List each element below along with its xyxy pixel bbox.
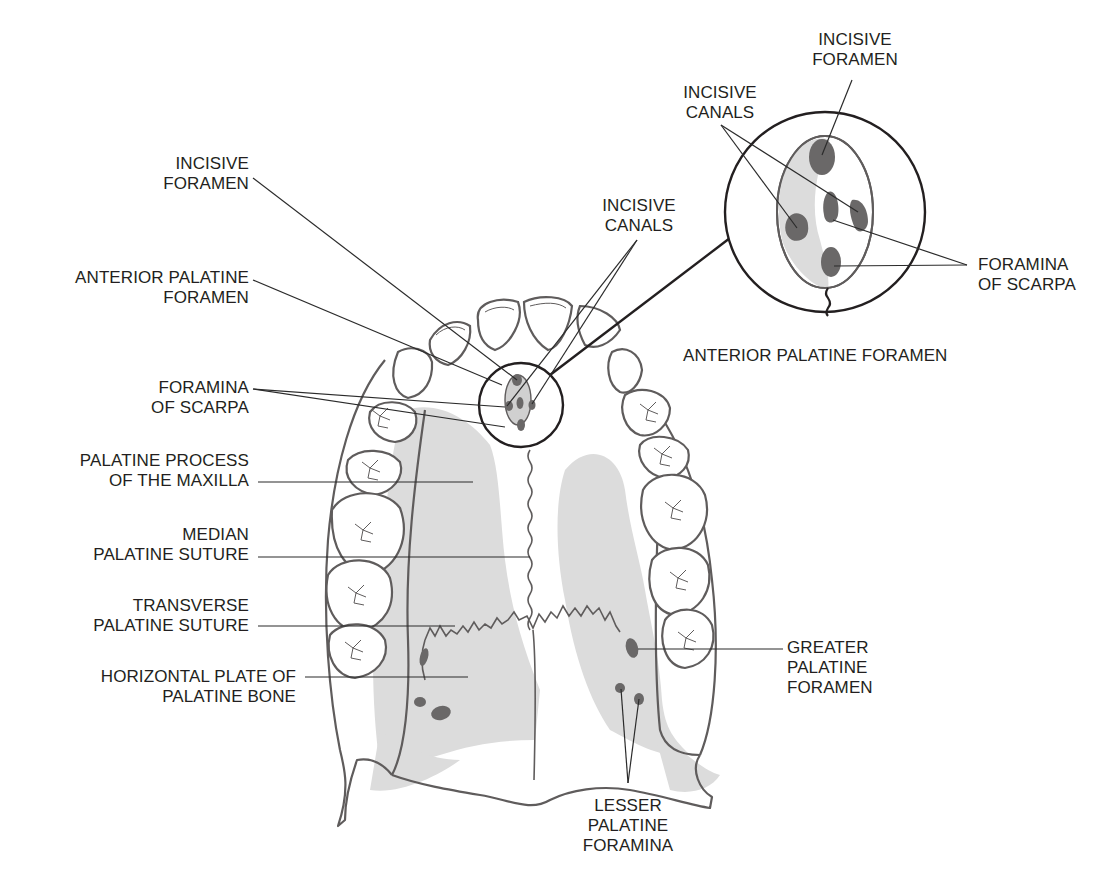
label-foramina-of-scarpa: FORAMINA OF SCARPA xyxy=(151,378,249,418)
label-line: FORAMEN xyxy=(787,678,873,698)
label-incisive-canals-center: INCISIVE CANALS xyxy=(594,196,684,236)
label-line: PALATINE xyxy=(568,816,688,836)
label-line: OF THE MAXILLA xyxy=(80,471,249,491)
label-line: FORAMEN xyxy=(75,288,249,308)
label-line: ANTERIOR PALATINE xyxy=(75,268,249,288)
label-line: PALATINE SUTURE xyxy=(93,545,249,565)
label-median-palatine-suture: MEDIAN PALATINE SUTURE xyxy=(93,525,249,565)
label-line: FORAMINA xyxy=(151,378,249,398)
label-line: HORIZONTAL PLATE OF xyxy=(101,667,296,687)
label-line: FORAMEN xyxy=(800,50,910,70)
palate-diagram: INCISIVE FORAMEN ANTERIOR PALATINE FORAM… xyxy=(0,0,1116,890)
label-lesser-palatine-foramina: LESSER PALATINE FORAMINA xyxy=(568,796,688,856)
inset-title-text: ANTERIOR PALATINE FORAMEN xyxy=(683,346,947,366)
label-line: CANALS xyxy=(594,216,684,236)
label-line: FORAMEN xyxy=(163,174,249,194)
label-line: FORAMINA xyxy=(978,255,1076,275)
inset-anterior-palatine-foramen xyxy=(725,112,925,316)
label-anterior-palatine-foramen: ANTERIOR PALATINE FORAMEN xyxy=(75,268,249,308)
label-line: CANALS xyxy=(665,103,775,123)
label-line: INCISIVE xyxy=(594,196,684,216)
label-incisive-foramen: INCISIVE FORAMEN xyxy=(163,154,249,194)
label-incisive-canals-inset: INCISIVE CANALS xyxy=(665,83,775,123)
label-line: TRANSVERSE xyxy=(93,596,249,616)
palate-illustration xyxy=(0,0,1116,890)
label-line: OF SCARPA xyxy=(978,275,1076,295)
label-line: MEDIAN xyxy=(93,525,249,545)
label-foramina-of-scarpa-inset: FORAMINA OF SCARPA xyxy=(978,255,1076,295)
label-line: INCISIVE xyxy=(800,30,910,50)
label-incisive-foramen-inset: INCISIVE FORAMEN xyxy=(800,30,910,70)
label-line: FORAMINA xyxy=(568,836,688,856)
label-line: PALATINE BONE xyxy=(101,687,296,707)
label-palatine-process-of-maxilla: PALATINE PROCESS OF THE MAXILLA xyxy=(80,451,249,491)
label-line: PALATINE xyxy=(787,658,873,678)
label-line: INCISIVE xyxy=(163,154,249,174)
label-line: LESSER xyxy=(568,796,688,816)
label-line: OF SCARPA xyxy=(151,398,249,418)
label-line: INCISIVE xyxy=(665,83,775,103)
label-transverse-palatine-suture: TRANSVERSE PALATINE SUTURE xyxy=(93,596,249,636)
inset-title: ANTERIOR PALATINE FORAMEN xyxy=(683,346,947,366)
label-horizontal-plate-of-palatine-bone: HORIZONTAL PLATE OF PALATINE BONE xyxy=(101,667,296,707)
label-line: GREATER xyxy=(787,638,873,658)
label-line: PALATINE PROCESS xyxy=(80,451,249,471)
label-greater-palatine-foramen: GREATER PALATINE FORAMEN xyxy=(787,638,873,698)
label-line: PALATINE SUTURE xyxy=(93,616,249,636)
